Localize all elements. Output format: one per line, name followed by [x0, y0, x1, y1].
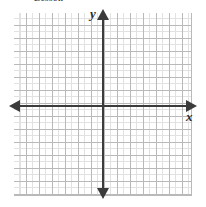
coordinate-grid-figure: Lesson y x: [0, 0, 206, 207]
clipped-header-text: Lesson: [34, 0, 94, 3]
x-axis-left-arrow-icon: [9, 100, 20, 112]
x-axis-label: x: [186, 110, 193, 123]
y-axis-label: y: [90, 7, 96, 20]
y-axis-down-arrow-icon: [97, 188, 109, 199]
y-axis-up-arrow-icon: [97, 9, 109, 20]
y-axis-line: [102, 18, 104, 190]
